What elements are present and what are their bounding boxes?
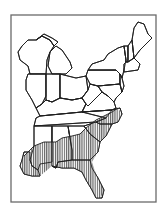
state-indiana — [46, 74, 60, 102]
state-maine — [132, 22, 152, 58]
state-pennsylvania — [86, 70, 120, 86]
range-map — [0, 0, 167, 213]
